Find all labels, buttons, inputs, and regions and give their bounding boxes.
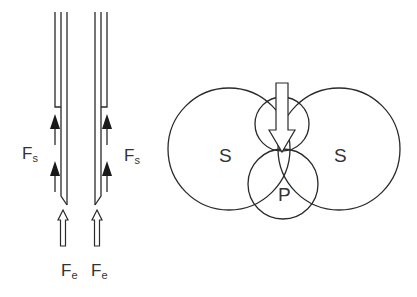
label-fe-left: Fe <box>61 262 78 281</box>
left-needle <box>55 12 67 205</box>
label-fe-right: Fe <box>91 262 108 281</box>
label-s-right: S <box>334 146 347 165</box>
label-fs-right: Fs <box>124 147 140 166</box>
label-fs-left: Fs <box>22 145 38 164</box>
diagram-canvas: Fs Fs Fe Fe S S P <box>0 0 417 297</box>
downward-arrow <box>269 83 295 152</box>
label-s-left: S <box>219 146 232 165</box>
fs-arrows <box>50 114 112 192</box>
label-p: P <box>278 185 291 204</box>
diagram-svg <box>0 0 417 297</box>
right-needle <box>95 12 107 205</box>
fe-arrows <box>58 210 102 246</box>
